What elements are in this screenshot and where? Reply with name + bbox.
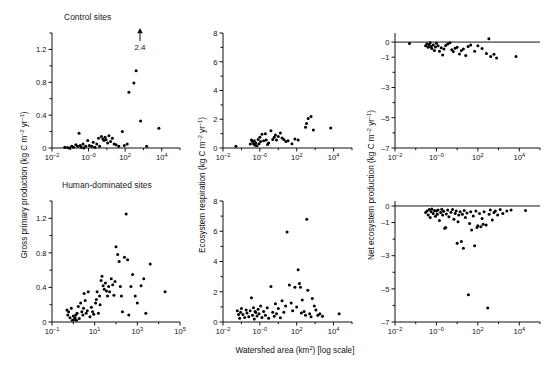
data-point <box>476 44 479 47</box>
data-point <box>282 138 285 141</box>
data-point <box>458 52 461 55</box>
data-point <box>481 217 484 220</box>
data-point <box>142 277 145 280</box>
ytick-label-gpp-human-0: 0 <box>42 318 46 327</box>
data-point <box>467 293 470 296</box>
data-point <box>321 315 324 318</box>
data-point <box>274 302 277 305</box>
data-point <box>125 212 128 215</box>
data-point <box>258 136 261 139</box>
ytick-label-nep-human-4: –7 <box>381 318 389 327</box>
ytick-label-er-control-1: 2 <box>213 115 217 124</box>
data-point <box>92 141 95 144</box>
data-point <box>115 143 118 146</box>
data-point <box>293 286 296 289</box>
data-point <box>134 295 137 298</box>
ytick-label-nep-human-2: –3 <box>381 251 389 260</box>
data-point <box>313 305 316 308</box>
data-point <box>264 314 267 317</box>
data-point <box>446 209 449 212</box>
ytick-label-nep-control-0: 0 <box>385 38 389 47</box>
data-point <box>432 212 435 215</box>
data-point <box>457 220 460 223</box>
data-point <box>129 285 132 288</box>
data-point <box>275 139 278 142</box>
data-point <box>279 316 282 319</box>
data-point <box>123 144 126 147</box>
data-point <box>308 312 311 315</box>
data-point <box>496 214 499 217</box>
data-point <box>249 142 252 145</box>
data-point <box>338 312 341 315</box>
data-point <box>86 309 89 312</box>
data-point <box>69 316 72 319</box>
data-point <box>286 231 289 234</box>
data-point <box>452 50 455 53</box>
data-point <box>76 145 79 148</box>
data-point <box>489 55 492 58</box>
ytick-label-gpp-control-2: 0.8 <box>36 78 47 87</box>
data-point <box>510 209 513 212</box>
data-point <box>438 50 441 53</box>
data-point <box>252 306 255 309</box>
data-point <box>98 295 101 298</box>
ylabel-er-post: ) <box>198 117 207 120</box>
data-point <box>437 44 440 47</box>
data-point <box>277 135 280 138</box>
data-point <box>75 319 78 322</box>
data-point <box>291 309 294 312</box>
data-point <box>70 307 73 310</box>
ytick-label-er-control-2: 4 <box>213 86 217 95</box>
data-point <box>288 283 291 286</box>
ytick-label-nep-human-3: –5 <box>381 285 389 294</box>
ytick-label-er-control-4: 8 <box>213 29 217 38</box>
data-point <box>301 299 304 302</box>
xaxis-caption-post: ) [log scale] <box>313 346 355 355</box>
data-point <box>441 214 444 217</box>
data-point <box>92 313 95 316</box>
ytick-label-nep-human-0: 0 <box>385 202 389 211</box>
data-point <box>102 284 105 287</box>
data-point <box>247 315 250 318</box>
data-point <box>106 142 109 145</box>
data-point <box>457 214 460 217</box>
data-point <box>104 282 107 285</box>
data-point <box>269 285 272 288</box>
data-point <box>144 312 147 315</box>
ylabel-nep-post: ) <box>367 110 376 113</box>
ytick-label-nep-control-2: –3 <box>381 83 389 92</box>
data-point <box>442 210 445 213</box>
data-point <box>462 47 465 50</box>
data-point <box>492 53 495 56</box>
data-point <box>429 41 432 44</box>
data-point <box>243 316 246 319</box>
data-point <box>281 299 284 302</box>
data-point <box>100 279 103 282</box>
data-point <box>105 289 108 292</box>
data-point <box>234 145 237 148</box>
ytick-label-nep-control-3: –5 <box>381 114 389 123</box>
ytick-label-er-human-1: 2 <box>213 288 217 297</box>
data-point <box>451 208 454 211</box>
data-point <box>486 306 489 309</box>
data-point <box>136 301 139 304</box>
ylabel-er-pre: Ecosystem respiration (kg C m <box>198 141 207 253</box>
data-point <box>238 317 241 320</box>
ytick-label-gpp-human-1: 0.4 <box>36 283 47 292</box>
data-point <box>79 301 82 304</box>
data-point <box>105 138 108 141</box>
ytick-label-gpp-human-2: 0.8 <box>36 249 47 258</box>
data-point <box>126 258 129 261</box>
data-point <box>488 213 491 216</box>
data-point <box>305 122 308 125</box>
data-point <box>112 294 115 297</box>
data-point <box>135 69 138 72</box>
data-point <box>123 256 126 259</box>
data-point <box>310 315 313 318</box>
data-point <box>245 311 248 314</box>
data-point <box>311 297 314 300</box>
data-point <box>78 317 81 320</box>
data-point <box>298 282 301 285</box>
data-point <box>455 209 458 212</box>
data-point <box>269 129 272 132</box>
